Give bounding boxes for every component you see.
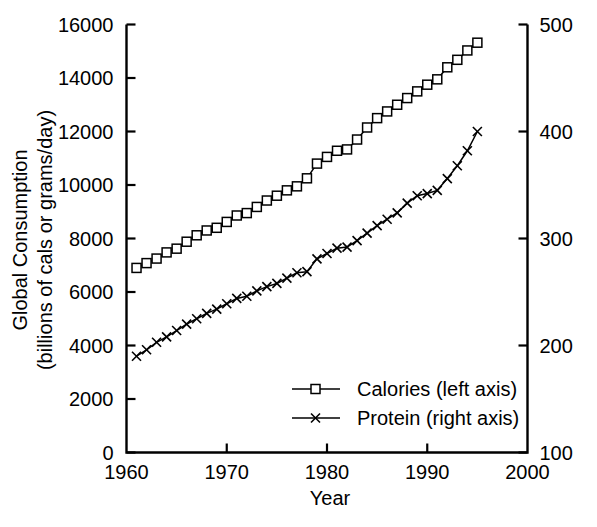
data-point-square	[222, 217, 231, 226]
data-point-square	[132, 263, 141, 272]
x-tick-label: 1960	[104, 461, 149, 483]
right-tick-label: 500	[540, 14, 573, 36]
legend-marker-square-icon	[311, 385, 320, 394]
left-tick-label: 8000	[69, 228, 114, 250]
chart-svg: 0200040006000800010000120001400016000 10…	[0, 0, 597, 527]
data-point-square	[302, 174, 311, 183]
x-axis-title: Year	[310, 487, 351, 509]
data-point-square	[272, 191, 281, 200]
data-point-square	[292, 182, 301, 191]
right-tick-label: 400	[540, 121, 573, 143]
data-point-square	[242, 209, 251, 218]
left-tick-label: 10000	[58, 174, 114, 196]
x-tick-label: 1970	[205, 461, 250, 483]
data-point-square	[202, 226, 211, 235]
legend-label-protein: Protein (right axis)	[357, 407, 519, 429]
data-point-square	[162, 248, 171, 257]
data-point-square	[433, 75, 442, 84]
data-point-square	[312, 159, 321, 168]
data-point-square	[413, 87, 422, 96]
y-axis-title-line1: Global Consumption	[9, 149, 31, 330]
data-point-square	[212, 223, 221, 232]
data-point-square	[453, 55, 462, 64]
data-point-square	[333, 146, 342, 155]
data-point-square	[423, 80, 432, 89]
data-point-square	[363, 123, 372, 132]
left-tick-label: 6000	[69, 281, 114, 303]
data-point-square	[323, 152, 332, 161]
x-tick-label: 2000	[505, 461, 550, 483]
legend-label-calories: Calories (left axis)	[357, 378, 517, 400]
data-point-square	[232, 211, 241, 220]
right-tick-label: 200	[540, 335, 573, 357]
data-point-square	[172, 244, 181, 253]
data-point-square	[192, 231, 201, 240]
data-point-square	[152, 254, 161, 263]
data-point-square	[373, 114, 382, 123]
data-point-square	[252, 202, 261, 211]
y-axis-title-line2: (billions of cals or grams/day)	[34, 110, 56, 370]
data-point-square	[463, 46, 472, 55]
data-point-square	[443, 63, 452, 72]
data-point-square	[282, 186, 291, 195]
x-tick-label: 1980	[305, 461, 350, 483]
data-point-square	[473, 38, 482, 47]
data-point-square	[262, 196, 271, 205]
data-point-square	[353, 135, 362, 144]
chart-figure: 0200040006000800010000120001400016000 10…	[0, 0, 597, 527]
left-tick-label: 4000	[69, 335, 114, 357]
data-point-square	[142, 259, 151, 268]
left-tick-label: 16000	[58, 14, 114, 36]
data-point-square	[383, 107, 392, 116]
left-tick-label: 14000	[58, 67, 114, 89]
data-point-square	[182, 237, 191, 246]
data-point-square	[393, 100, 402, 109]
left-tick-label: 2000	[69, 388, 114, 410]
left-tick-label: 12000	[58, 121, 114, 143]
right-tick-label: 300	[540, 228, 573, 250]
data-point-square	[403, 94, 412, 103]
data-point-square	[343, 145, 352, 154]
x-tick-label: 1990	[405, 461, 450, 483]
